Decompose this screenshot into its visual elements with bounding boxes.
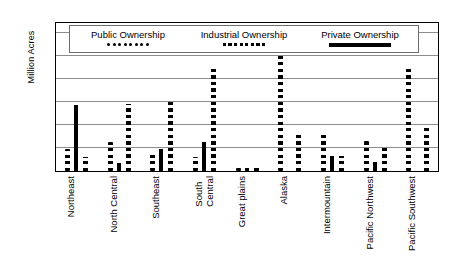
bar-private — [245, 168, 249, 171]
bar-industrial — [126, 104, 131, 171]
bar-public — [236, 168, 241, 171]
legend-label-private: Private Ownership — [321, 30, 399, 40]
bar-public — [364, 141, 369, 171]
bar-industrial — [296, 135, 301, 171]
bar-industrial — [168, 99, 173, 171]
bar-public — [406, 67, 411, 171]
x-tick-label: Great plains — [237, 176, 248, 227]
bar-public — [150, 154, 155, 171]
legend-item-industrial: Industrial Ownership — [186, 26, 302, 52]
bar-private — [330, 156, 334, 171]
bar-industrial — [254, 166, 259, 171]
chart-legend: Public Ownership Industrial Ownership Pr… — [69, 25, 419, 53]
bar-industrial — [211, 69, 216, 171]
x-tick-label: South Central — [194, 176, 215, 207]
x-tick-label: Pacific Southwest — [407, 176, 418, 251]
legend-item-public: Public Ownership — [70, 26, 186, 52]
legend-label-industrial: Industrial Ownership — [201, 30, 288, 40]
x-tick-label: Intermountain — [322, 176, 333, 234]
bar-industrial — [83, 157, 88, 171]
bar-public — [108, 142, 113, 171]
bar-private — [117, 163, 121, 171]
x-tick-label: Pacific Northwest — [365, 176, 376, 249]
bar-private — [202, 142, 206, 171]
bar-industrial — [382, 148, 387, 171]
legend-item-private: Private Ownership — [302, 26, 418, 52]
bar-public — [193, 157, 198, 171]
x-tick-label: Northeast — [66, 176, 77, 217]
bar-private — [74, 105, 78, 171]
solid-bar-icon — [329, 42, 391, 48]
bar-public — [278, 53, 283, 171]
x-tick-label: Alaska — [279, 176, 290, 205]
bar-industrial — [424, 128, 429, 171]
chart-root: Million Acres 120 100 80 60 40 20 Public… — [0, 0, 456, 271]
legend-label-public: Public Ownership — [91, 30, 165, 40]
square-dots-icon — [223, 42, 265, 48]
bar-industrial — [339, 156, 344, 171]
x-axis-tick-labels: NortheastNorth CentralSoutheastSouth Cen… — [55, 176, 439, 271]
bar-private — [373, 162, 377, 171]
x-tick-label: North Central — [109, 176, 120, 233]
bar-public — [65, 149, 70, 171]
y-axis-title: Million Acres — [26, 2, 36, 112]
bar-public — [321, 133, 326, 171]
bar-private — [159, 149, 163, 171]
x-tick-label: Southeast — [151, 176, 162, 219]
round-dots-icon — [107, 42, 149, 48]
